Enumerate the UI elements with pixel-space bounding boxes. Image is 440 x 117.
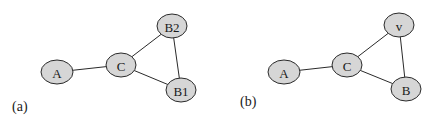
node-b: B [391,77,421,101]
node-label: A [279,66,289,81]
node-a: A [41,60,73,84]
node-b1: B1 [166,78,196,102]
node-c: C [332,53,362,77]
node-b2: B2 [157,14,187,38]
node-label: C [343,59,352,74]
panel-b-nodes: ACvB [268,13,421,101]
node-label: B1 [173,84,188,99]
panel-a-label: (a) [12,99,28,115]
panel-a-nodes: ACB2B1 [41,14,196,102]
panel-b-label: (b) [240,94,257,110]
node-label: A [52,66,62,81]
panel-a: ACB2B1 (a) [12,14,196,115]
node-label: B [402,83,411,98]
node-c: C [106,53,136,77]
node-a: A [268,60,300,84]
node-v: v [384,13,414,37]
node-label: v [396,19,403,34]
graph-diagram: ACB2B1 (a) ACvB (b) [0,0,440,117]
node-label: B2 [164,20,179,35]
panel-b: ACvB (b) [240,13,421,110]
node-label: C [117,59,126,74]
